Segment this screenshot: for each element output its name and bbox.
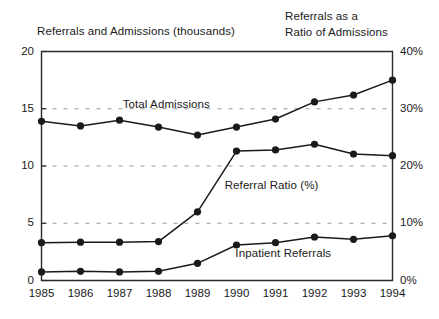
y-axis-label-right: 10%: [400, 216, 423, 228]
y-axis-label-left: 5: [8, 216, 34, 228]
series-annotation-2: Referral Ratio (%): [225, 179, 319, 191]
data-point: [116, 117, 123, 124]
data-point: [116, 268, 123, 275]
data-point: [38, 239, 45, 246]
data-point: [77, 268, 84, 275]
x-axis-label: 1988: [139, 287, 179, 299]
x-axis-label: 1986: [61, 287, 101, 299]
chart-series-layer: [38, 77, 396, 276]
y-axis-label-right: 40%: [400, 45, 423, 57]
data-point: [389, 152, 396, 159]
data-point: [194, 260, 201, 267]
y-axis-label-left: 0: [8, 274, 34, 286]
data-point: [38, 268, 45, 275]
chart-figure: Referrals and Admissions (thousands) Ref…: [0, 0, 439, 319]
data-point: [311, 141, 318, 148]
data-point: [350, 150, 357, 157]
data-point: [233, 148, 240, 155]
data-point: [389, 77, 396, 84]
data-point: [272, 115, 279, 122]
data-point: [350, 236, 357, 243]
chart-plot-area: [0, 0, 439, 319]
y-axis-label-left: 15: [8, 102, 34, 114]
x-axis-label: 1991: [256, 287, 296, 299]
chart-gridlines: [42, 109, 393, 224]
data-point: [311, 233, 318, 240]
y-axis-label-left: 20: [8, 45, 34, 57]
y-axis-label-right: 0%: [400, 274, 417, 286]
x-axis-label: 1985: [22, 287, 62, 299]
y-axis-label-right: 20%: [400, 159, 423, 171]
data-point: [233, 123, 240, 130]
data-point: [155, 238, 162, 245]
data-point: [77, 239, 84, 246]
data-point: [155, 268, 162, 275]
data-point: [389, 232, 396, 239]
series-line-3: [42, 236, 393, 272]
data-point: [116, 239, 123, 246]
x-axis-label: 1989: [178, 287, 218, 299]
series-annotation-1: Total Admissions: [123, 98, 210, 110]
x-axis-label: 1987: [100, 287, 140, 299]
y-axis-label-right: 30%: [400, 102, 423, 114]
x-axis-label: 1990: [217, 287, 257, 299]
x-axis-label: 1992: [295, 287, 335, 299]
y-axis-label-left: 10: [8, 159, 34, 171]
data-point: [194, 131, 201, 138]
data-point: [272, 146, 279, 153]
series-line-1: [42, 80, 393, 135]
x-axis-label: 1994: [373, 287, 413, 299]
data-point: [77, 122, 84, 129]
series-line-2: [42, 144, 393, 242]
data-point: [194, 208, 201, 215]
x-axis-label: 1993: [334, 287, 374, 299]
data-point: [272, 239, 279, 246]
data-point: [38, 118, 45, 125]
data-point: [350, 91, 357, 98]
series-annotation-3: Inpatient Referrals: [235, 247, 331, 259]
data-point: [155, 123, 162, 130]
data-point: [311, 98, 318, 105]
